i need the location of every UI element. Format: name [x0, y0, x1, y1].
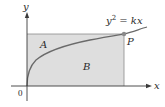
origin-label: 0 — [18, 88, 23, 98]
region-a-label: A — [39, 39, 47, 50]
x-axis-label: x — [154, 80, 160, 91]
point-p-marker — [122, 32, 126, 36]
y-axis-label: y — [22, 1, 29, 12]
region-b-label: B — [82, 61, 90, 72]
equation-rhs: = kx — [116, 15, 143, 26]
diagram: y x 0 A B P y2 = kx — [0, 0, 165, 107]
curve-equation: y2 = kx — [105, 14, 143, 26]
y-axis-arrow-icon — [25, 12, 29, 18]
x-axis-arrow-icon — [146, 84, 152, 88]
point-p-label: P — [126, 36, 134, 47]
